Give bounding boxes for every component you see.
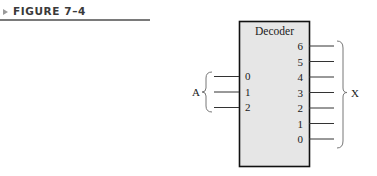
input-pin-0: 0 xyxy=(245,70,251,82)
input-brace xyxy=(202,72,212,112)
decoder-diagram: Decoder 0 1 2 A 6 5 4 3 2 1 0 X xyxy=(0,0,377,176)
input-pin-2: 2 xyxy=(245,101,251,113)
decoder-title: Decoder xyxy=(255,25,294,37)
input-pin-1: 1 xyxy=(245,86,251,98)
output-group-label: X xyxy=(351,87,359,99)
input-pin-labels: 0 1 2 xyxy=(245,70,251,113)
input-lines xyxy=(214,77,239,108)
output-pin-3: 3 xyxy=(298,87,304,99)
output-pin-2: 2 xyxy=(298,102,304,114)
output-brace xyxy=(337,41,347,148)
input-group-label: A xyxy=(192,86,200,98)
output-pin-labels: 6 5 4 3 2 1 0 xyxy=(298,40,304,145)
output-lines xyxy=(309,46,334,139)
output-pin-1: 1 xyxy=(298,118,304,130)
output-pin-4: 4 xyxy=(298,71,304,83)
output-pin-5: 5 xyxy=(298,56,304,68)
output-pin-0: 0 xyxy=(298,133,304,145)
output-pin-6: 6 xyxy=(298,40,304,52)
